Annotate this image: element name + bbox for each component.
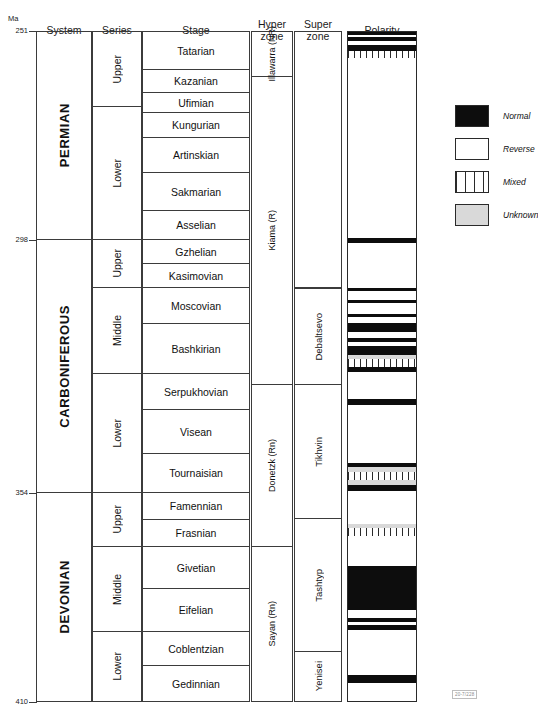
polarity-band-reverse-23 bbox=[348, 372, 416, 399]
series-cell-label: Upper bbox=[111, 505, 123, 534]
series-cell-upper: Upper bbox=[92, 493, 142, 547]
polarity-band-mixed-5 bbox=[348, 51, 416, 58]
polarity-band-reverse-42 bbox=[348, 683, 416, 702]
polarity-band-reverse-36 bbox=[348, 610, 416, 618]
stage-cell-label: Kazanian bbox=[174, 75, 218, 87]
stage-cell-gedinnian: Gedinnian bbox=[142, 666, 250, 702]
stage-cell-label: Gzhelian bbox=[175, 246, 216, 258]
polarity-band-reverse-12 bbox=[348, 303, 416, 314]
legend-label-unknown: Unknown bbox=[503, 210, 538, 220]
stage-cell-asselian: Asselian bbox=[142, 211, 250, 240]
polarity-band-mixed-21 bbox=[348, 359, 416, 367]
stage-cell-bashkirian: Bashkirian bbox=[142, 324, 250, 374]
polarity-band-reverse-10 bbox=[348, 291, 416, 300]
stage-cell-label: Artinskian bbox=[173, 149, 219, 161]
stage-cell-label: Kungurian bbox=[172, 119, 220, 131]
axis-tick-label-298: 298 bbox=[8, 235, 28, 244]
polarity-band-reverse-6 bbox=[348, 58, 416, 238]
stage-cell-label: Serpukhovian bbox=[164, 386, 228, 398]
polarity-band-normal-15 bbox=[348, 323, 416, 332]
stage-cell-coblentzian: Coblentzian bbox=[142, 632, 250, 666]
stage-cell-label: Asselian bbox=[176, 219, 216, 231]
stage-cell-sakmarian: Sakmarian bbox=[142, 173, 250, 211]
hyperzone-cell-sayan-rn: Sayan (Rn) bbox=[251, 547, 293, 702]
stage-cell-tatarian: Tatarian bbox=[142, 31, 250, 70]
hyperzone-cell-label: Donetzk (Rn) bbox=[267, 439, 277, 492]
system-cell-permian: PERMIAN bbox=[36, 31, 92, 240]
legend-item-normal: Normal bbox=[455, 105, 530, 127]
system-cell-devonian: DEVONIAN bbox=[36, 493, 92, 702]
stage-cell-serpukhovian: Serpukhovian bbox=[142, 374, 250, 410]
figure-code: 20-7/228 bbox=[452, 690, 477, 699]
series-cell-label: Middle bbox=[111, 574, 123, 605]
system-cell-label: PERMIAN bbox=[57, 103, 72, 167]
stage-cell-kungurian: Kungurian bbox=[142, 113, 250, 138]
legend-swatch-normal-icon bbox=[455, 105, 489, 127]
hyperzone-cell-label: Kiama (R) bbox=[267, 210, 277, 251]
stage-cell-label: Tournaisian bbox=[169, 467, 223, 479]
axis-tick-label-354: 354 bbox=[8, 488, 28, 497]
stage-cell-label: Bashkirian bbox=[171, 343, 220, 355]
superzone-cell-empty bbox=[294, 31, 342, 288]
system-cell-label: DEVONIAN bbox=[57, 560, 72, 633]
stage-cell-label: Ufimian bbox=[178, 97, 214, 109]
superzone-cell-tikhvin: Tikhvin bbox=[294, 385, 342, 519]
stage-cell-kazanian: Kazanian bbox=[142, 70, 250, 93]
legend-item-reverse: Reverse bbox=[455, 138, 535, 160]
stage-cell-label: Moscovian bbox=[171, 300, 221, 312]
stage-cell-label: Gedinnian bbox=[172, 678, 220, 690]
polarity-band-reverse-34 bbox=[348, 536, 416, 566]
series-cell-label: Lower bbox=[111, 652, 123, 681]
legend-swatch-mixed-icon bbox=[455, 171, 489, 193]
legend-label-reverse: Reverse bbox=[503, 144, 535, 154]
stage-cell-tournaisian: Tournaisian bbox=[142, 454, 250, 493]
system-cell-carboniferous: CARBONIFEROUS bbox=[36, 240, 92, 493]
stage-cell-gzhelian: Gzhelian bbox=[142, 240, 250, 264]
hyperzone-cell-illawarra-nr: Illawarra (NR) bbox=[251, 31, 293, 77]
superzone-cell-label: Debaltsevo bbox=[313, 313, 324, 361]
polarity-column bbox=[347, 31, 417, 702]
column-header-superzone-line-0: Super bbox=[294, 19, 342, 31]
superzone-cell-label: Tikhvin bbox=[313, 437, 324, 467]
series-cell-middle: Middle bbox=[92, 288, 142, 374]
stage-cell-visean: Visean bbox=[142, 410, 250, 454]
series-cell-middle: Middle bbox=[92, 547, 142, 632]
superzone-cell-tashtyp: Tashtyp bbox=[294, 519, 342, 652]
hyperzone-cell-label: Sayan (Rn) bbox=[267, 601, 277, 647]
polarity-legend: NormalReverseMixedUnknown bbox=[455, 105, 519, 235]
polarity-band-normal-35 bbox=[348, 566, 416, 610]
axis-tick-label-410: 410 bbox=[8, 697, 28, 706]
series-cell-label: Upper bbox=[111, 249, 123, 278]
polarity-band-mixed-28 bbox=[348, 472, 416, 480]
legend-label-mixed: Mixed bbox=[503, 177, 526, 187]
hyperzone-cell-donetzk-rn: Donetzk (Rn) bbox=[251, 385, 293, 547]
stage-cell-kasimovian: Kasimovian bbox=[142, 264, 250, 288]
stage-cell-givetian: Givetian bbox=[142, 547, 250, 589]
hyperzone-cell-label: Illawarra (NR) bbox=[267, 26, 277, 82]
axis-tick-label-251: 251 bbox=[8, 26, 28, 35]
polarity-band-normal-19 bbox=[348, 346, 416, 355]
stage-cell-label: Tatarian bbox=[177, 45, 214, 57]
axis-tick-410 bbox=[29, 702, 37, 703]
series-cell-label: Lower bbox=[111, 419, 123, 448]
stage-cell-ufimian: Ufimian bbox=[142, 93, 250, 113]
legend-swatch-reverse-icon bbox=[455, 138, 489, 160]
legend-swatch-unknown-icon bbox=[455, 204, 489, 226]
legend-item-mixed: Mixed bbox=[455, 171, 526, 193]
stage-cell-label: Eifelian bbox=[179, 604, 213, 616]
series-cell-lower: Lower bbox=[92, 632, 142, 702]
stage-cell-label: Sakmarian bbox=[171, 186, 221, 198]
stage-cell-label: Coblentzian bbox=[168, 643, 223, 655]
polarity-band-normal-41 bbox=[348, 675, 416, 683]
legend-item-unknown: Unknown bbox=[455, 204, 538, 226]
superzone-cell-debaltsevo: Debaltsevo bbox=[294, 288, 342, 385]
series-cell-lower: Lower bbox=[92, 374, 142, 493]
series-cell-upper: Upper bbox=[92, 31, 142, 107]
hyperzone-cell-kiama-r: Kiama (R) bbox=[251, 77, 293, 385]
series-cell-lower: Lower bbox=[92, 107, 142, 240]
stage-cell-moscovian: Moscovian bbox=[142, 288, 250, 324]
series-cell-label: Lower bbox=[111, 159, 123, 188]
series-cell-label: Upper bbox=[111, 55, 123, 84]
polarity-band-reverse-31 bbox=[348, 491, 416, 524]
